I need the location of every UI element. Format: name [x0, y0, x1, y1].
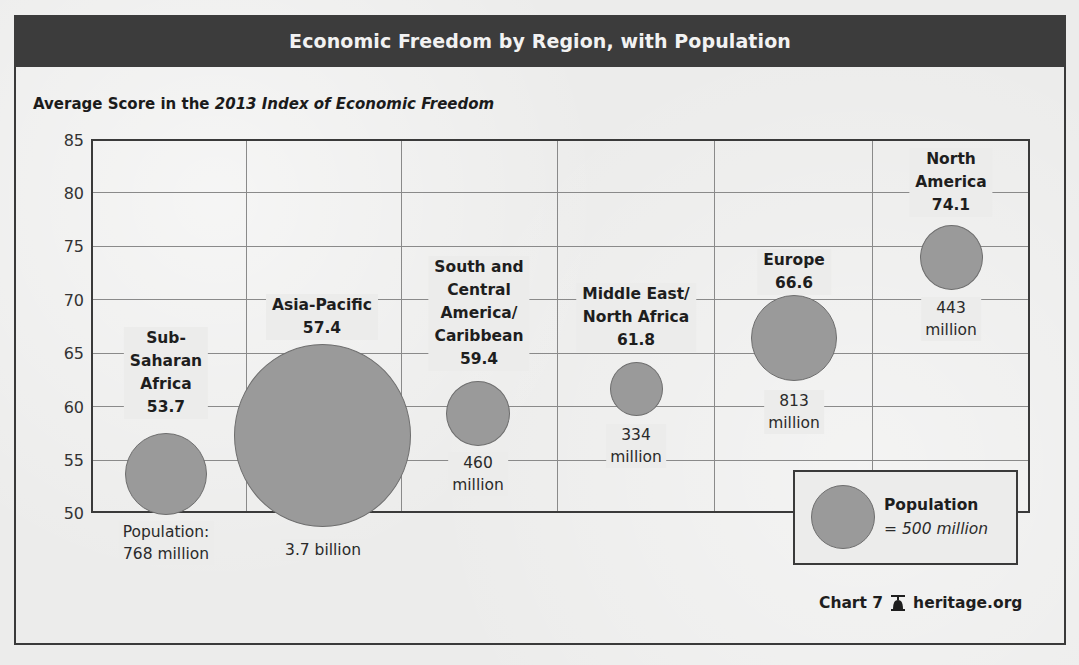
population-line: million — [610, 446, 662, 468]
region-name-line: Central — [434, 279, 523, 302]
liberty-bell-icon — [889, 594, 907, 612]
region-name-line: Europe — [763, 249, 825, 272]
bubble-north-america — [920, 225, 983, 290]
region-name-line: Asia-Pacific — [272, 294, 372, 317]
population-line: Population: — [123, 521, 210, 543]
chart-title-text: Economic Freedom by Region, with Populat… — [289, 30, 791, 52]
y-tick-75: 75 — [40, 237, 84, 256]
plot-area — [91, 139, 1030, 513]
region-label-north-america: North America 74.1 — [909, 148, 992, 217]
region-score: 66.6 — [763, 272, 825, 295]
region-name-line: Sub- — [130, 327, 202, 350]
region-score: 61.8 — [582, 329, 690, 352]
bubble-europe — [751, 295, 837, 381]
population-label-south-central-america-caribbean: 460 million — [448, 452, 508, 496]
chart-number: Chart 7 — [819, 594, 883, 612]
y-tick-70: 70 — [40, 291, 84, 310]
region-label-sub-saharan-africa: Sub- Saharan Africa 53.7 — [124, 327, 208, 419]
y-tick-55: 55 — [40, 451, 84, 470]
region-score: 74.1 — [915, 194, 986, 217]
y-tick-60: 60 — [40, 398, 84, 417]
region-name-line: Saharan — [130, 350, 202, 373]
legend-bubble — [811, 485, 875, 549]
region-name-line: Africa — [130, 373, 202, 396]
population-line: 334 — [610, 424, 662, 446]
subtitle-index-name: 2013 Index of Economic Freedom — [215, 95, 494, 113]
region-name-line: Middle East/ — [582, 283, 690, 306]
population-label-europe: 813 million — [764, 390, 824, 434]
y-tick-50: 50 — [40, 504, 84, 523]
region-name-line: America/ — [434, 302, 523, 325]
population-line: million — [768, 412, 820, 434]
chart-title: Economic Freedom by Region, with Populat… — [14, 15, 1066, 67]
chart-source: Chart 7 heritage.org — [819, 594, 1022, 612]
bubble-asia-pacific — [234, 344, 411, 527]
y-tick-80: 80 — [40, 184, 84, 203]
population-line: 3.7 billion — [285, 539, 361, 561]
bubble-middle-east-north-africa — [610, 362, 663, 416]
legend-value: = 500 million — [884, 520, 988, 538]
subtitle-prefix: Average Score in the — [33, 95, 215, 113]
chart-subtitle: Average Score in the 2013 Index of Econo… — [33, 95, 494, 113]
population-label-middle-east-north-africa: 334 million — [606, 424, 666, 468]
population-label-asia-pacific: 3.7 billion — [281, 539, 365, 561]
population-label-sub-saharan-africa: Population: 768 million — [119, 521, 214, 565]
population-line: 443 — [925, 297, 977, 319]
region-label-europe: Europe 66.6 — [757, 249, 831, 295]
region-label-south-central-america-caribbean: South and Central America/ Caribbean 59.… — [428, 256, 529, 371]
region-label-middle-east-north-africa: Middle East/ North Africa 61.8 — [576, 283, 696, 352]
population-line: 460 — [452, 452, 504, 474]
region-score: 53.7 — [130, 396, 202, 419]
region-score: 57.4 — [272, 317, 372, 340]
population-line: 813 — [768, 390, 820, 412]
population-line: million — [452, 474, 504, 496]
legend: Population = 500 million — [793, 470, 1018, 565]
legend-title: Population — [884, 496, 978, 514]
region-score: 59.4 — [434, 348, 523, 371]
region-name-line: North Africa — [582, 306, 690, 329]
population-line: 768 million — [123, 543, 210, 565]
region-name-line: North — [915, 148, 986, 171]
source-site: heritage.org — [913, 594, 1022, 612]
bubble-sub-saharan-africa — [125, 433, 207, 515]
region-name-line: South and — [434, 256, 523, 279]
bubble-south-central-america-caribbean — [446, 381, 510, 446]
y-tick-65: 65 — [40, 344, 84, 363]
region-name-line: America — [915, 171, 986, 194]
region-name-line: Caribbean — [434, 325, 523, 348]
population-line: million — [925, 319, 977, 341]
y-tick-85: 85 — [40, 131, 84, 150]
population-label-north-america: 443 million — [921, 297, 981, 341]
region-label-asia-pacific: Asia-Pacific 57.4 — [266, 294, 378, 340]
